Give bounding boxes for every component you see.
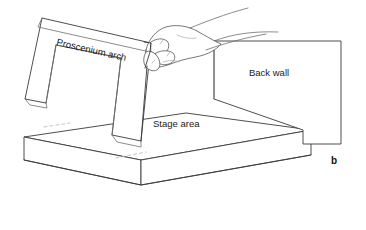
figure-letter-label: b: [331, 155, 337, 166]
back-wall-top-curl: [214, 32, 278, 41]
theatre-model-diagram: Proscenium arch Stage area Back wall b: [0, 0, 366, 230]
stage-area-label: Stage area: [153, 118, 200, 129]
stage-marking-left: [44, 123, 70, 127]
back-wall-label: Back wall: [249, 67, 289, 78]
forearm-upper-line: [190, 8, 248, 28]
proscenium-arch-face: [25, 18, 151, 141]
